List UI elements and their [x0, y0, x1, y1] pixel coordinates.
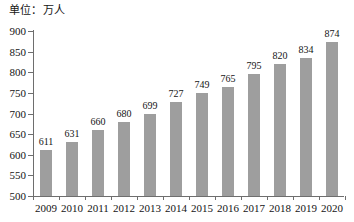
bar-slot[interactable]: 749 — [189, 31, 215, 196]
y-axis-label: 700 — [10, 108, 27, 119]
bar-slot[interactable]: 795 — [241, 31, 267, 196]
bar[interactable] — [196, 93, 208, 196]
x-axis-label: 2012 — [113, 202, 135, 214]
x-axis-label: 2016 — [217, 202, 239, 214]
x-axis-label: 2018 — [269, 202, 291, 214]
x-axis-label: 2010 — [61, 202, 83, 214]
bar[interactable] — [170, 102, 182, 196]
x-axis-tick — [215, 196, 216, 200]
bar[interactable] — [92, 130, 104, 196]
x-axis-tick — [319, 196, 320, 200]
bar-value-label: 611 — [39, 137, 54, 147]
x-axis-tick — [267, 196, 268, 200]
bar-value-label: 660 — [91, 117, 106, 127]
bar-slot[interactable]: 660 — [85, 31, 111, 196]
x-axis-tick — [33, 196, 34, 200]
bar-slot[interactable]: 765 — [215, 31, 241, 196]
x-axis-label: 2009 — [35, 202, 57, 214]
bar-value-label: 749 — [195, 80, 210, 90]
bar-value-label: 795 — [247, 61, 262, 71]
bar[interactable] — [40, 150, 52, 196]
bar-value-label: 820 — [273, 51, 288, 61]
bar-slot[interactable]: 874 — [319, 31, 345, 196]
bar-slot[interactable]: 727 — [163, 31, 189, 196]
bar[interactable] — [300, 58, 312, 196]
bar-chart: 单位：万人 500550600650700750800850900 611631… — [0, 0, 354, 222]
bar[interactable] — [222, 87, 234, 196]
bar-slot[interactable]: 834 — [293, 31, 319, 196]
bar-value-label: 631 — [65, 129, 80, 139]
y-axis-label: 650 — [10, 129, 27, 140]
y-axis-label: 550 — [10, 170, 27, 181]
x-axis-tick — [137, 196, 138, 200]
x-axis-tick — [85, 196, 86, 200]
x-axis-tick — [59, 196, 60, 200]
y-axis-label: 900 — [10, 26, 27, 37]
x-axis-tick — [163, 196, 164, 200]
x-axis-label: 2015 — [191, 202, 213, 214]
y-axis-label: 850 — [10, 46, 27, 57]
bar[interactable] — [66, 142, 78, 196]
bar-slot[interactable]: 699 — [137, 31, 163, 196]
x-axis-tick — [345, 196, 346, 200]
bar-value-label: 834 — [299, 45, 314, 55]
bar[interactable] — [326, 42, 338, 196]
x-axis-tick — [111, 196, 112, 200]
x-axis-label: 2011 — [87, 202, 109, 214]
bar-slot[interactable]: 631 — [59, 31, 85, 196]
y-axis-label: 500 — [10, 191, 27, 202]
bar-value-label: 874 — [325, 29, 340, 39]
x-axis-tick — [293, 196, 294, 200]
bar-value-label: 727 — [169, 89, 184, 99]
bar[interactable] — [248, 74, 260, 196]
x-axis-tick — [189, 196, 190, 200]
x-axis-label: 2014 — [165, 202, 187, 214]
chart-unit-title: 单位：万人 — [9, 3, 65, 17]
y-axis-label: 600 — [10, 149, 27, 160]
bar-slot[interactable]: 680 — [111, 31, 137, 196]
plot-area: 500550600650700750800850900 611631660680… — [33, 31, 344, 196]
x-axis-label: 2020 — [321, 202, 343, 214]
x-axis-label: 2013 — [139, 202, 161, 214]
bar-slot[interactable]: 820 — [267, 31, 293, 196]
bar[interactable] — [144, 114, 156, 196]
bar[interactable] — [118, 122, 130, 196]
bar-slot[interactable]: 611 — [33, 31, 59, 196]
bar-value-label: 680 — [117, 109, 132, 119]
y-axis-label: 750 — [10, 87, 27, 98]
y-axis-label: 800 — [10, 67, 27, 78]
bar[interactable] — [274, 64, 286, 196]
bar-value-label: 699 — [143, 101, 158, 111]
x-axis-label: 2019 — [295, 202, 317, 214]
x-axis-label: 2017 — [243, 202, 265, 214]
x-axis-tick — [241, 196, 242, 200]
bar-value-label: 765 — [221, 74, 236, 84]
